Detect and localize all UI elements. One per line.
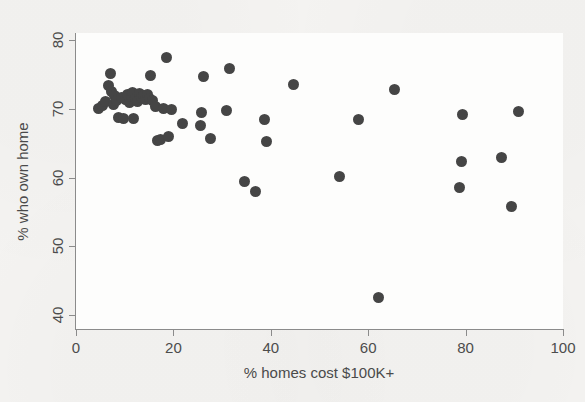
y-tick-label: 80 bbox=[49, 32, 66, 49]
data-point bbox=[195, 120, 206, 131]
x-tick-label: 80 bbox=[457, 339, 474, 356]
data-point bbox=[198, 71, 209, 82]
scatter-plot-figure: % who own home 4050607080 020406080100 %… bbox=[0, 0, 585, 402]
data-point bbox=[389, 84, 400, 95]
data-points-layer bbox=[76, 33, 563, 329]
data-point bbox=[196, 107, 207, 118]
data-point bbox=[177, 118, 188, 129]
data-point bbox=[456, 156, 467, 167]
data-point bbox=[496, 152, 507, 163]
x-tick-mark bbox=[563, 329, 564, 336]
data-point bbox=[334, 171, 345, 182]
y-tick-label: 70 bbox=[49, 100, 66, 117]
x-tick-label: 0 bbox=[72, 339, 80, 356]
data-point bbox=[221, 105, 232, 116]
data-point bbox=[145, 70, 156, 81]
x-tick-mark bbox=[76, 329, 77, 336]
data-point bbox=[205, 133, 216, 144]
x-tick-label: 40 bbox=[262, 339, 279, 356]
x-tick-mark bbox=[271, 329, 272, 336]
x-tick-mark bbox=[173, 329, 174, 336]
x-tick-mark bbox=[466, 329, 467, 336]
data-point bbox=[506, 201, 517, 212]
data-point bbox=[373, 292, 384, 303]
y-tick-mark bbox=[69, 40, 76, 41]
y-tick-mark bbox=[69, 109, 76, 110]
data-point bbox=[250, 186, 261, 197]
y-tick-mark bbox=[69, 315, 76, 316]
data-point bbox=[163, 131, 174, 142]
data-point bbox=[105, 68, 116, 79]
data-point bbox=[261, 136, 272, 147]
x-tick-label: 20 bbox=[165, 339, 182, 356]
data-point bbox=[128, 113, 139, 124]
x-tick-label: 100 bbox=[550, 339, 575, 356]
data-point bbox=[224, 63, 235, 74]
data-point bbox=[457, 109, 468, 120]
data-point bbox=[454, 182, 465, 193]
data-point bbox=[259, 114, 270, 125]
data-point bbox=[353, 114, 364, 125]
data-point bbox=[161, 52, 172, 63]
y-tick-label: 60 bbox=[49, 169, 66, 186]
x-tick-label: 60 bbox=[360, 339, 377, 356]
data-point bbox=[288, 79, 299, 90]
y-tick-label: 50 bbox=[49, 238, 66, 255]
y-tick-mark bbox=[69, 246, 76, 247]
x-axis-label: % homes cost $100K+ bbox=[75, 364, 563, 381]
data-point bbox=[166, 104, 177, 115]
plot-area: 4050607080 020406080100 bbox=[75, 33, 563, 330]
data-point bbox=[239, 176, 250, 187]
y-axis-label: % who own home bbox=[14, 33, 32, 330]
y-tick-mark bbox=[69, 178, 76, 179]
data-point bbox=[513, 106, 524, 117]
x-tick-mark bbox=[368, 329, 369, 336]
y-tick-label: 40 bbox=[49, 307, 66, 324]
